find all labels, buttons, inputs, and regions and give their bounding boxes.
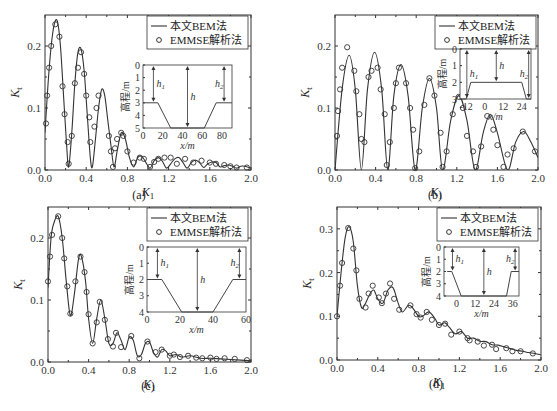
- bathymetry-inset: 012340122436x/m高程/mh1hh2: [420, 242, 519, 320]
- x-tick-label: 1.2: [453, 362, 467, 374]
- emmse-marker: [199, 158, 204, 163]
- emmse-marker: [232, 356, 237, 361]
- inset-x-tick: 60: [241, 314, 251, 325]
- emmse-marker: [429, 317, 434, 322]
- y-axis-label: Kt: [300, 278, 316, 290]
- legend: 本文BEM法EMMSE解析法: [437, 208, 538, 241]
- emmse-marker: [354, 89, 359, 94]
- inset-depth-label: h: [499, 60, 504, 71]
- emmse-marker: [505, 152, 510, 157]
- y-tick-label: 0.1: [27, 102, 41, 114]
- emmse-marker: [222, 356, 227, 361]
- y-tick-label: 0.1: [319, 310, 333, 322]
- x-tick-label: 0.4: [371, 362, 385, 374]
- inset-x-label: x/m: [188, 324, 203, 335]
- emmse-marker: [418, 315, 423, 320]
- emmse-marker: [88, 140, 93, 145]
- legend-line-label: 本文BEM法: [460, 211, 517, 224]
- x-tick-label: 2.0: [531, 172, 545, 184]
- inset-x-label: x/m: [487, 111, 502, 122]
- inset-depth-label: h: [487, 266, 492, 277]
- figure-canvas: 0.00.40.81.21.62.00.00.10.2K1Kt(a)本文BEM法…: [0, 0, 557, 411]
- inset-x-tick: 0: [145, 314, 150, 325]
- panel-caption: (b): [428, 188, 442, 202]
- inset-y-label: 高程/m: [123, 264, 135, 295]
- emmse-marker: [382, 112, 387, 117]
- y-axis-label: Kt: [8, 87, 24, 99]
- emmse-marker: [168, 155, 173, 160]
- inset-x-tick: 80: [217, 130, 227, 141]
- x-tick-label: 0.4: [82, 364, 96, 376]
- bathymetry-inset: 012345020406080x/m高程/mh1hh2: [119, 60, 232, 152]
- inset-x-tick: 36: [508, 298, 518, 309]
- x-tick-label: 2.0: [534, 362, 548, 374]
- chart-panel-a: 0.00.40.81.21.62.00.00.10.2K1Kt(a)本文BEM法…: [8, 15, 258, 202]
- legend-marker-label: EMMSE解析法: [170, 33, 242, 46]
- inset-y-tick: 2: [436, 266, 441, 277]
- x-tick-label: 1.2: [163, 364, 177, 376]
- bathymetry-inset: 0123-1201224x/m高程/mh1hh2: [436, 44, 531, 123]
- emmse-marker: [464, 133, 469, 138]
- inset-x-tick: 20: [158, 130, 168, 141]
- inset-y-tick: 1: [436, 254, 441, 265]
- emmse-marker: [495, 143, 500, 148]
- x-tick-label: 0.8: [412, 362, 426, 374]
- emmse-marker: [387, 281, 392, 286]
- inset-x-tick: 24: [489, 298, 499, 309]
- x-tick-label: 0.8: [121, 172, 135, 184]
- y-tick-label: 0.2: [27, 40, 41, 52]
- inset-y-tick: 3: [452, 94, 457, 105]
- x-tick-label: 0.8: [122, 364, 136, 376]
- emmse-marker: [162, 155, 167, 160]
- y-axis-label: Kt: [298, 87, 314, 99]
- inset-y-label: 高程/m: [420, 256, 432, 287]
- y-tick-label: 0.3: [319, 223, 333, 235]
- y-tick-label: 0.2: [317, 40, 331, 52]
- emmse-marker: [345, 45, 350, 50]
- inset-y-tick: 0: [452, 44, 457, 55]
- emmse-marker: [112, 146, 117, 151]
- emmse-marker: [408, 105, 413, 110]
- x-tick-label: 1.2: [450, 172, 464, 184]
- emmse-marker: [417, 149, 422, 154]
- emmse-marker: [392, 296, 397, 301]
- emmse-marker: [106, 133, 111, 138]
- inset-y-tick: 5: [135, 123, 140, 134]
- inset-y-tick: 3: [139, 290, 144, 301]
- inset-y-tick: 1: [135, 72, 140, 83]
- emmse-marker: [370, 283, 375, 288]
- inset-y-tick: 1: [452, 60, 457, 71]
- emmse-marker: [391, 105, 396, 110]
- emmse-marker: [375, 65, 380, 70]
- x-tick-label: 1.2: [162, 172, 176, 184]
- emmse-marker: [491, 127, 496, 132]
- legend: 本文BEM法EMMSE解析法: [147, 16, 248, 49]
- legend-marker-label: EMMSE解析法: [458, 33, 530, 46]
- emmse-marker: [449, 332, 454, 337]
- inset-depth-label: h: [191, 91, 196, 102]
- inset-y-tick: 4: [139, 307, 144, 318]
- inset-x-tick: 20: [175, 314, 185, 325]
- inset-y-tick: 0: [436, 242, 441, 253]
- emmse-marker: [352, 68, 357, 73]
- legend-line-label: 本文BEM法: [170, 211, 227, 224]
- inset-y-tick: 1: [139, 258, 144, 269]
- legend-line-label: 本文BEM法: [458, 19, 515, 32]
- y-tick-label: 0.0: [317, 164, 331, 176]
- inset-y-tick: 0: [135, 60, 140, 71]
- legend-line-label: 本文BEM法: [170, 19, 227, 32]
- emmse-marker: [481, 343, 486, 348]
- emmse-marker: [174, 161, 179, 166]
- x-tick-label: 0.8: [409, 172, 423, 184]
- y-tick-label: 0.1: [30, 294, 44, 306]
- inset-y-label: 高程/m: [436, 59, 448, 90]
- inset-y-tick: 0: [139, 242, 144, 253]
- inset-y-tick: 2: [135, 85, 140, 96]
- legend-marker-label: EMMSE解析法: [170, 225, 242, 238]
- y-tick-label: 0.1: [317, 102, 331, 114]
- y-tick-label: 0.0: [319, 354, 333, 366]
- x-tick-label: 1.6: [493, 362, 507, 374]
- chart-panel-b: 0.00.40.81.21.62.00.00.10.2K1Kt(b)本文BEM法…: [298, 15, 545, 202]
- legend: 本文BEM法EMMSE解析法: [147, 208, 248, 241]
- x-tick-label: 1.6: [204, 364, 218, 376]
